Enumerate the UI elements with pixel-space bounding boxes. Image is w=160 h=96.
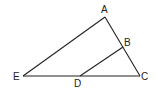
label-e: E: [13, 71, 20, 82]
label-d: D: [74, 78, 81, 89]
segment-bd: [80, 47, 123, 76]
segment-ac: [105, 17, 140, 76]
triangle-diagram: A B C D E: [0, 0, 160, 96]
label-a: A: [101, 4, 108, 15]
label-b: B: [124, 37, 131, 48]
label-c: C: [141, 71, 148, 82]
